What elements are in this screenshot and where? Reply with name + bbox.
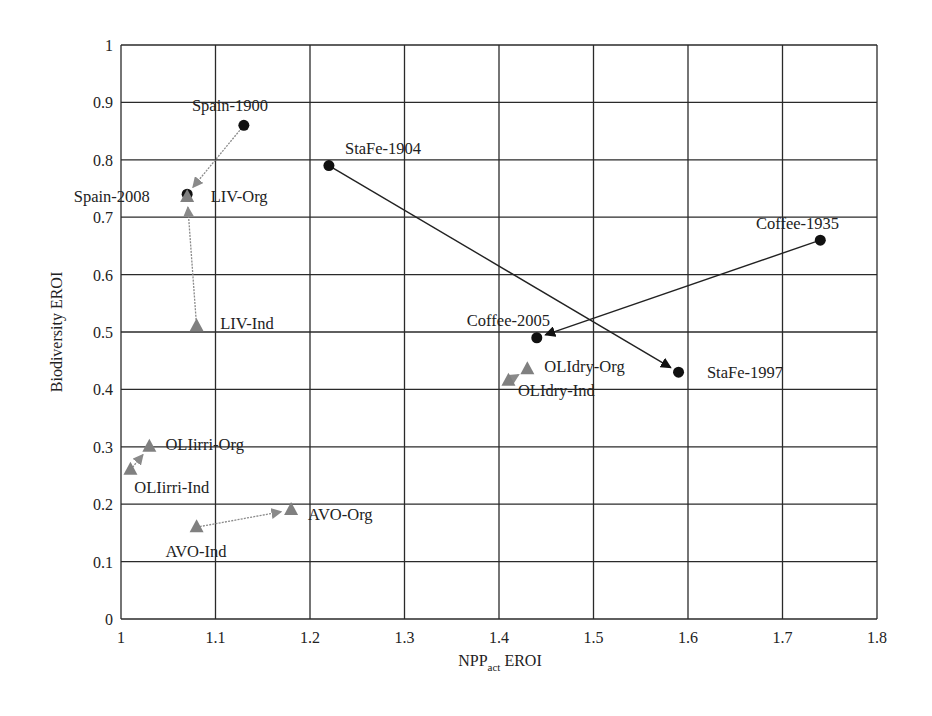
point-label: StaFe-1904: [345, 139, 421, 158]
x-tick-label: 1.4: [489, 629, 509, 646]
point-label: OLIirri-Org: [165, 435, 244, 454]
point-label: AVO-Org: [308, 505, 372, 524]
x-tick-label: 1.5: [584, 629, 604, 646]
y-tick-label: 0.8: [93, 152, 113, 169]
y-tick-label: 0.5: [93, 324, 113, 341]
circle-marker: [238, 120, 249, 131]
triangle-marker: [190, 318, 204, 331]
x-tick-label: 1.2: [300, 629, 320, 646]
arrow-stafe: [329, 166, 671, 368]
y-tick-label: 0.7: [93, 209, 113, 226]
circle-marker: [815, 235, 826, 246]
y-tick-label: 0.1: [93, 554, 113, 571]
x-axis-title-main: NPP: [458, 652, 487, 669]
y-tick-label: 0.9: [93, 94, 113, 111]
y-tick-label: 1: [105, 37, 113, 54]
x-tick-label: 1: [117, 629, 125, 646]
point-label: OLIdry-Ind: [518, 381, 596, 400]
x-tick-label: 1.6: [678, 629, 698, 646]
triangle-marker: [142, 439, 156, 452]
y-tick-label: 0: [105, 611, 113, 628]
y-tick-label: 0.4: [93, 381, 113, 398]
arrow-coffee: [545, 240, 820, 335]
y-tick-label: 0.3: [93, 439, 113, 456]
x-tick-label: 1.8: [867, 629, 887, 646]
y-tick-label: 0.2: [93, 496, 113, 513]
x-tick-label: 1.7: [773, 629, 793, 646]
point-label: AVO-Ind: [165, 542, 227, 561]
x-tick-label: 1.1: [206, 629, 226, 646]
triangle-marker: [520, 361, 534, 374]
point-labels: Spain-1900Spain-2008LIV-OrgLIV-IndStaFe-…: [74, 96, 839, 561]
x-tick-label: 1.3: [395, 629, 415, 646]
circle-marker: [531, 332, 542, 343]
scatter-chart: 11.11.21.31.41.51.61.71.800.10.20.30.40.…: [0, 0, 932, 716]
point-label: OLIirri-Ind: [134, 478, 210, 497]
x-axis-title-subscript: act: [488, 661, 501, 673]
point-label: Spain-2008: [74, 187, 150, 206]
circle-marker: [673, 367, 684, 378]
arrow-spain: [193, 125, 244, 187]
point-label: Spain-1900: [192, 96, 268, 115]
y-tick-label: 0.6: [93, 267, 113, 284]
y-axis-title: Biodiversity EROI: [48, 272, 66, 392]
x-axis-title: NPPact EROI: [458, 652, 542, 673]
point-label: StaFe-1997: [707, 363, 783, 382]
circle-marker: [323, 160, 334, 171]
point-label: Coffee-1935: [756, 214, 839, 233]
point-label: LIV-Org: [211, 187, 268, 206]
arrow-avo: [197, 512, 282, 527]
x-axis-title-suffix: EROI: [500, 652, 541, 669]
point-label: LIV-Ind: [220, 314, 274, 333]
triangle-marker: [501, 373, 515, 386]
arrow-liv: [188, 207, 197, 326]
point-label: Coffee-2005: [467, 311, 550, 330]
point-label: OLIdry-Org: [544, 357, 624, 376]
